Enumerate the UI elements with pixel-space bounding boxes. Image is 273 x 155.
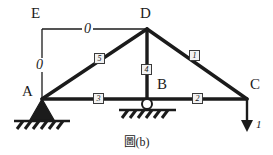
pin-triangle-icon: [30, 99, 54, 120]
node-label-c: C: [250, 77, 260, 92]
node-label-a: A: [22, 84, 33, 99]
truss-figure: A B C D E 0 0 1 2 3 4 5 1 圖(b): [0, 0, 273, 155]
member-5-a-d: [42, 29, 147, 99]
node-label-b: B: [157, 77, 167, 92]
member-tag-4: 4: [141, 64, 152, 75]
load-arrow-head: [241, 120, 253, 132]
zero-force-label-ed: 0: [82, 22, 93, 36]
roller-circle-icon: [142, 99, 152, 109]
member-tag-3: 3: [93, 93, 104, 104]
load-arrow-at-c: [241, 99, 253, 132]
member-tag-2: 2: [192, 93, 203, 104]
member-tag-1: 1: [189, 50, 200, 61]
node-label-e: E: [31, 6, 40, 21]
node-label-d: D: [140, 6, 151, 21]
support-pin-a: [14, 99, 70, 129]
support-roller-b: [119, 99, 176, 118]
member-tag-5: 5: [94, 53, 105, 64]
load-magnitude-label: 1: [256, 119, 262, 130]
truss-diagram-canvas: [0, 0, 273, 155]
figure-caption: 圖(b): [0, 136, 273, 148]
zero-force-label-ea: 0: [34, 58, 45, 72]
